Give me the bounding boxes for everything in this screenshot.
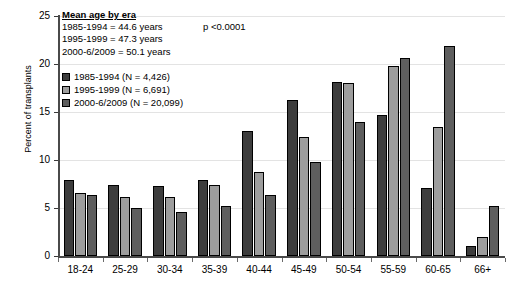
- bar: [221, 206, 232, 256]
- legend-item: 1985-1994 (N = 4,426): [62, 71, 183, 83]
- x-tick-label: 60-65: [416, 264, 461, 275]
- annotation-heading: Mean age by era: [62, 9, 171, 21]
- x-tick-mark: [460, 258, 461, 262]
- annotation-row-2: 2000-6/2009 = 50.1 years: [62, 46, 171, 58]
- bar: [444, 46, 455, 256]
- bar: [209, 185, 220, 256]
- x-tick-mark: [192, 258, 193, 262]
- bar: [343, 83, 354, 256]
- legend-label: 2000-6/2009 (N = 20,099): [74, 98, 183, 108]
- x-tick-label: 35-39: [192, 264, 237, 275]
- bar: [400, 58, 411, 256]
- bar: [108, 185, 119, 256]
- x-tick-label: 66+: [460, 264, 505, 275]
- bar: [153, 186, 164, 256]
- bar: [64, 180, 75, 256]
- bar: [310, 162, 321, 256]
- legend-label: 1985-1994 (N = 4,426): [74, 72, 170, 82]
- bar: [299, 137, 310, 256]
- x-tick-label: 40-44: [237, 264, 282, 275]
- bar: [377, 115, 388, 256]
- legend-item: 1995-1999 (N = 6,691): [62, 84, 183, 96]
- x-tick-mark: [505, 258, 506, 262]
- x-tick-label: 25-29: [103, 264, 148, 275]
- x-tick-label: 18-24: [58, 264, 103, 275]
- bar: [198, 180, 209, 256]
- y-tick-label: 20: [24, 59, 50, 69]
- bar: [87, 195, 98, 256]
- bar: [131, 208, 142, 256]
- y-tick-label: 0: [24, 251, 50, 261]
- bar: [176, 212, 187, 256]
- x-tick-mark: [282, 258, 283, 262]
- x-tick-mark: [326, 258, 327, 262]
- y-tick-label: 10: [24, 155, 50, 165]
- legend-swatch-icon: [62, 86, 70, 94]
- legend-swatch-icon: [62, 73, 70, 81]
- bar: [388, 66, 399, 256]
- bar: [254, 172, 265, 256]
- y-tick-label: 25: [24, 11, 50, 21]
- bar: [433, 127, 444, 256]
- x-tick-mark: [58, 258, 59, 262]
- bar: [421, 188, 432, 256]
- bar: [355, 122, 366, 256]
- bar: [477, 237, 488, 256]
- x-tick-label: 55-59: [371, 264, 416, 275]
- y-tick-label: 15: [24, 107, 50, 117]
- x-tick-label: 50-54: [326, 264, 371, 275]
- bar-chart: Percent of transplants 0510152025 18-242…: [0, 0, 511, 288]
- y-tick-label: 5: [24, 203, 50, 213]
- bar: [265, 195, 276, 256]
- bar: [332, 82, 343, 256]
- annotation-row-1: 1995-1999 = 47.3 years: [62, 33, 171, 45]
- x-tick-label: 45-49: [282, 264, 327, 275]
- bar: [120, 197, 131, 256]
- legend: 1985-1994 (N = 4,426)1995-1999 (N = 6,69…: [62, 71, 183, 110]
- legend-label: 1995-1999 (N = 6,691): [74, 85, 170, 95]
- bar: [75, 193, 86, 256]
- x-tick-mark: [147, 258, 148, 262]
- legend-item: 2000-6/2009 (N = 20,099): [62, 97, 183, 109]
- x-tick-mark: [237, 258, 238, 262]
- x-tick-mark: [416, 258, 417, 262]
- legend-swatch-icon: [62, 99, 70, 107]
- annotation-row-0: 1985-1994 = 44.6 years: [62, 21, 171, 33]
- x-tick-mark: [103, 258, 104, 262]
- bar: [165, 197, 176, 256]
- bar: [242, 131, 253, 256]
- p-value-label: p <0.0001: [203, 21, 246, 32]
- bar: [287, 100, 298, 256]
- x-tick-label: 30-34: [147, 264, 192, 275]
- mean-age-annotation: Mean age by era 1985-1994 = 44.6 years 1…: [62, 9, 171, 58]
- bar: [489, 206, 500, 256]
- bar: [466, 246, 477, 256]
- x-tick-mark: [371, 258, 372, 262]
